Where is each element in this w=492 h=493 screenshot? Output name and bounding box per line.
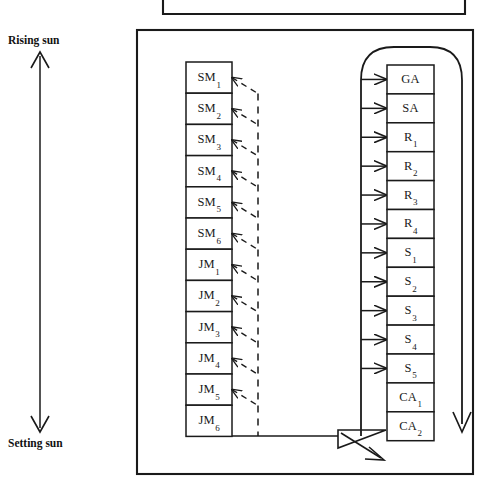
right-cell-box bbox=[387, 181, 434, 210]
right-cell-box bbox=[387, 152, 434, 181]
left-cell-box bbox=[186, 124, 232, 155]
left-cell-box bbox=[186, 218, 232, 249]
jm6-branch-connector bbox=[232, 430, 386, 460]
dashed-connector bbox=[232, 109, 258, 125]
right-column-boxes bbox=[387, 65, 434, 441]
right-cell-box bbox=[387, 238, 434, 267]
right-cell-box bbox=[387, 94, 434, 123]
left-cell-box bbox=[186, 62, 232, 93]
dashed-connector bbox=[232, 234, 258, 250]
right-cell-box bbox=[387, 210, 434, 239]
sun-axis-arrow bbox=[31, 52, 49, 432]
top-partial-frame bbox=[163, 0, 465, 14]
right-cell-box bbox=[387, 412, 434, 441]
rising-sun-label: Rising sun bbox=[8, 34, 59, 46]
left-cell-box bbox=[186, 312, 232, 343]
diagram-canvas: SM1SM2SM3SM4SM5SM6JM1JM2JM3JM4JM5JM6 GAS… bbox=[0, 0, 492, 493]
dashed-connector bbox=[232, 390, 258, 406]
right-cell-box bbox=[387, 383, 434, 412]
left-cell-box bbox=[186, 93, 232, 124]
left-cell-box bbox=[186, 405, 232, 436]
right-cell-box bbox=[387, 123, 434, 152]
left-cell-box bbox=[186, 156, 232, 187]
dashed-connector bbox=[232, 327, 258, 343]
feed-arrows bbox=[361, 79, 386, 368]
dashed-connector bbox=[232, 265, 258, 281]
dashed-connector bbox=[232, 140, 258, 156]
right-cell-box bbox=[387, 325, 434, 354]
dashed-connector bbox=[232, 358, 258, 374]
right-cell-box bbox=[387, 296, 434, 325]
left-cell-box bbox=[186, 187, 232, 218]
dashed-connector bbox=[232, 202, 258, 218]
left-column-boxes bbox=[186, 62, 232, 436]
dashed-connectors bbox=[232, 78, 258, 436]
left-cell-box bbox=[186, 343, 232, 374]
dashed-connector bbox=[232, 171, 258, 187]
left-cell-box bbox=[186, 374, 232, 405]
dashed-connector bbox=[232, 78, 258, 94]
right-cell-box bbox=[387, 354, 434, 383]
dashed-connector bbox=[232, 296, 258, 312]
left-cell-box bbox=[186, 249, 232, 280]
setting-sun-label: Setting sun bbox=[8, 437, 63, 449]
right-cell-box bbox=[387, 65, 434, 94]
left-cell-box bbox=[186, 280, 232, 311]
diagram-vector-layer bbox=[0, 0, 492, 493]
right-cell-box bbox=[387, 267, 434, 296]
